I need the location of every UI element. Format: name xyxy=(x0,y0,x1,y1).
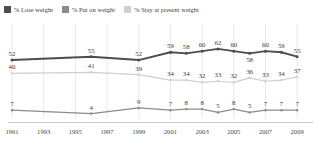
x-tick-label: 2007 xyxy=(259,128,272,135)
data-label: 59 xyxy=(278,42,285,49)
data-point xyxy=(201,108,203,110)
data-point xyxy=(280,51,283,54)
data-label: 7 xyxy=(264,100,268,107)
data-point xyxy=(11,109,13,111)
plot-area: 4041393434323332363334377497885857775255… xyxy=(0,18,325,122)
x-tick-label: 1991 xyxy=(5,128,18,135)
data-label: 7 xyxy=(169,100,173,107)
data-point xyxy=(138,73,140,75)
data-point xyxy=(185,108,187,110)
legend-label: % Stay at present weight xyxy=(134,6,199,13)
square-swatch-icon xyxy=(4,6,11,13)
data-point xyxy=(216,47,219,50)
x-tick-label: 2001 xyxy=(164,128,177,135)
data-label: 8 xyxy=(232,99,236,106)
legend-item-put-on-weight: % Put on weight xyxy=(62,6,115,13)
x-axis-line xyxy=(8,122,313,123)
legend-item-lose-weight: % Lose weight xyxy=(4,6,53,13)
x-tick-label: 2009 xyxy=(291,128,304,135)
data-point xyxy=(280,79,282,81)
data-label: 7 xyxy=(295,100,299,107)
data-label: 55 xyxy=(88,47,95,54)
data-label: 5 xyxy=(248,102,252,109)
data-point xyxy=(90,55,93,58)
data-label: 5 xyxy=(216,102,220,109)
x-tick-label: 1999 xyxy=(132,128,145,135)
data-point xyxy=(264,50,267,53)
x-tick-label: 2005 xyxy=(227,128,240,135)
data-point xyxy=(169,79,171,81)
x-tick-label: 1997 xyxy=(100,128,113,135)
data-point xyxy=(138,107,140,109)
data-label: 34 xyxy=(278,70,285,77)
data-point xyxy=(185,52,188,55)
data-label: 59 xyxy=(167,42,174,49)
data-label: 8 xyxy=(185,99,189,106)
data-point xyxy=(233,81,235,83)
data-label: 37 xyxy=(294,67,301,74)
data-label: 62 xyxy=(215,39,222,46)
data-label: 33 xyxy=(215,71,222,78)
square-swatch-icon xyxy=(62,6,69,13)
data-label: 60 xyxy=(199,41,206,48)
line-chart: % Lose weight % Put on weight % Stay at … xyxy=(0,0,325,147)
square-swatch-icon xyxy=(124,6,131,13)
data-point xyxy=(169,51,172,54)
data-label: 9 xyxy=(137,98,141,105)
x-tick-label: 1995 xyxy=(69,128,82,135)
data-label: 8 xyxy=(200,99,204,106)
data-point xyxy=(248,77,250,79)
data-label: 4 xyxy=(90,104,94,111)
data-point xyxy=(248,52,251,55)
data-label: 55 xyxy=(294,47,301,54)
data-point xyxy=(201,81,203,83)
data-point xyxy=(233,108,235,110)
data-label: 52 xyxy=(9,50,16,57)
data-label: 39 xyxy=(135,65,142,72)
x-axis: 1991199319951997199920012003200520072009 xyxy=(0,122,325,147)
data-point xyxy=(90,71,92,73)
data-point xyxy=(217,80,219,82)
data-point xyxy=(296,109,298,111)
data-point xyxy=(185,79,187,81)
data-point xyxy=(264,109,266,111)
data-point xyxy=(90,112,92,114)
data-label: 32 xyxy=(230,72,237,79)
x-tick-label: 1993 xyxy=(37,128,50,135)
data-point xyxy=(232,50,235,53)
data-point xyxy=(169,109,171,111)
legend-label: % Put on weight xyxy=(72,6,115,13)
data-label: 7 xyxy=(10,100,14,107)
data-point xyxy=(137,59,140,62)
data-point xyxy=(296,76,298,78)
data-label: 41 xyxy=(88,62,95,69)
data-point xyxy=(296,55,299,58)
data-label: 58 xyxy=(183,43,190,50)
x-tick-label: 2003 xyxy=(196,128,209,135)
data-point xyxy=(201,50,204,53)
data-label: 32 xyxy=(199,72,206,79)
legend-item-stay-at-present-weight: % Stay at present weight xyxy=(124,6,199,13)
legend-label: % Lose weight xyxy=(14,6,53,13)
data-point xyxy=(11,72,13,74)
data-label: 34 xyxy=(183,70,190,77)
series-line xyxy=(12,72,297,82)
data-label: 40 xyxy=(9,63,16,70)
data-label: 36 xyxy=(246,68,253,75)
series-line xyxy=(12,49,297,60)
series-line xyxy=(12,108,297,114)
data-point xyxy=(264,80,266,82)
chart-legend: % Lose weight % Put on weight % Stay at … xyxy=(0,0,325,18)
data-label: 33 xyxy=(262,71,269,78)
data-label: 52 xyxy=(135,50,142,57)
chart-svg: 4041393434323332363334377497885857775255… xyxy=(0,18,325,122)
data-label: 58 xyxy=(246,56,253,63)
data-point xyxy=(11,59,14,62)
data-label: 60 xyxy=(230,41,237,48)
data-point xyxy=(248,111,250,113)
data-label: 7 xyxy=(280,100,284,107)
data-label: 34 xyxy=(167,70,174,77)
data-point xyxy=(280,109,282,111)
data-point xyxy=(217,111,219,113)
data-label: 60 xyxy=(262,41,269,48)
